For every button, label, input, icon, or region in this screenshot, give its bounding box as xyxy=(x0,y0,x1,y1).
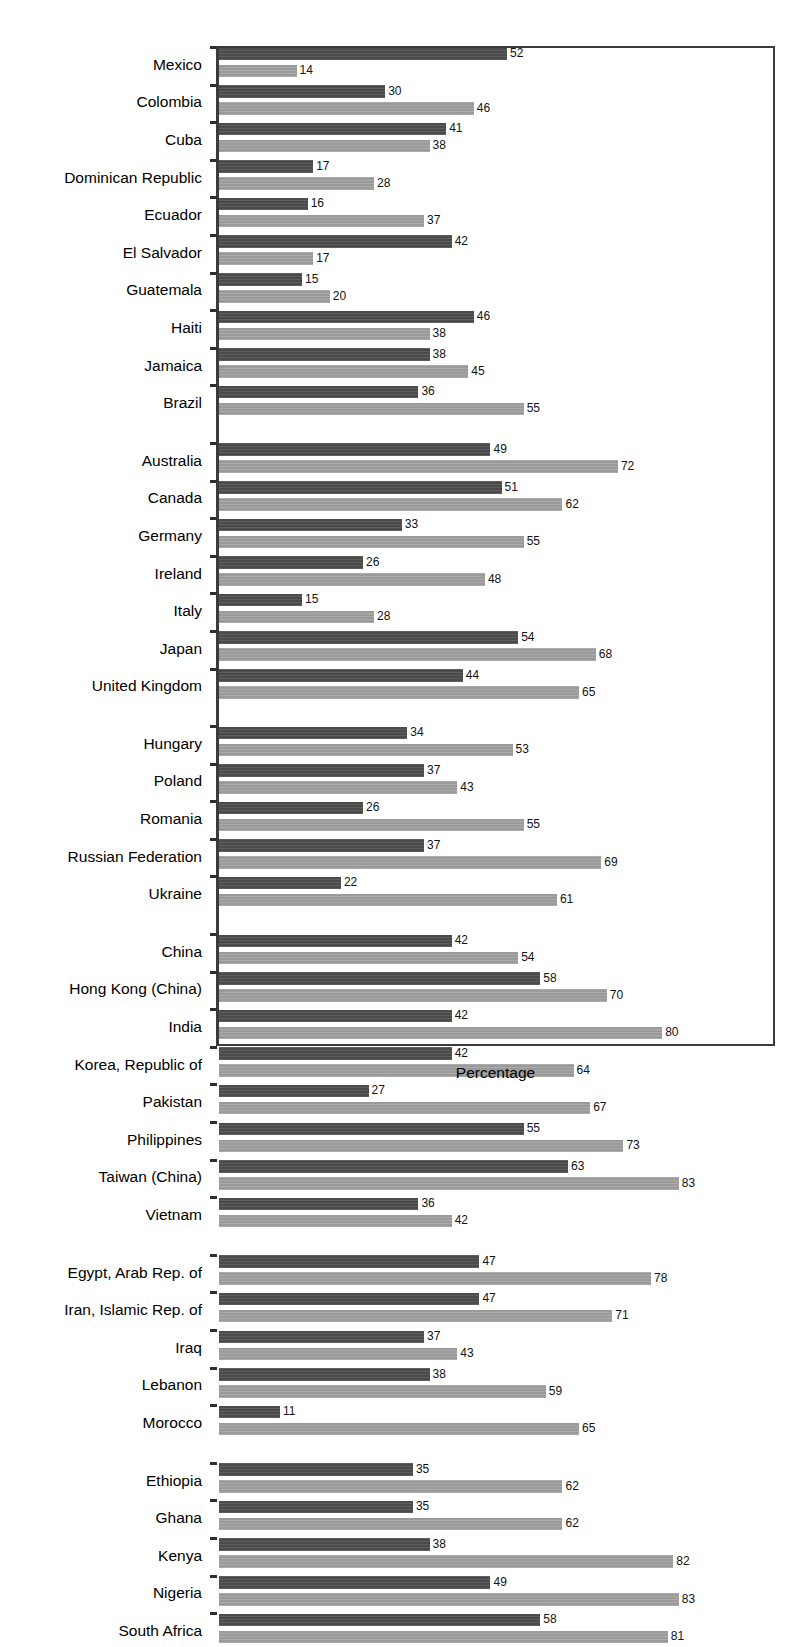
bar-line-light: 43 xyxy=(219,1346,775,1361)
bar-line-dark: 27 xyxy=(219,1083,775,1100)
bar-value-label: 54 xyxy=(521,629,534,645)
bar-line-light: 48 xyxy=(219,572,775,587)
bar-value-label: 62 xyxy=(565,1515,578,1531)
category-label: Dominican Republic xyxy=(0,159,210,197)
category-label: Nigeria xyxy=(0,1575,210,1613)
bar-line-dark: 17 xyxy=(219,159,775,176)
axis-tick-mark xyxy=(210,838,217,841)
category-label: Poland xyxy=(0,763,210,801)
axis-tick-mark xyxy=(210,555,217,558)
country-group-labels: EthiopiaGhanaKenyaNigeriaSouth Africa xyxy=(0,1462,210,1647)
bar-value-label: 65 xyxy=(582,684,595,700)
bar-line-dark: 38 xyxy=(219,347,775,364)
category-label: Vietnam xyxy=(0,1196,210,1234)
bar-dark xyxy=(219,877,341,890)
bar-value-label: 45 xyxy=(471,363,484,379)
bar-line-light: 62 xyxy=(219,1479,775,1494)
bar-row: 1520 xyxy=(216,272,775,310)
country-group-labels: ChinaHong Kong (China)IndiaKorea, Republ… xyxy=(0,933,210,1234)
bar-light xyxy=(219,1027,662,1040)
axis-tick-mark xyxy=(210,875,217,878)
bar-value-label: 38 xyxy=(433,137,446,153)
bar-line-dark: 16 xyxy=(219,196,775,213)
bar-value-label: 55 xyxy=(527,1120,540,1136)
axis-tick-mark xyxy=(210,668,217,671)
bar-value-label: 16 xyxy=(311,195,324,211)
country-group: 5214304641381728163742171520463838453655 xyxy=(216,46,775,422)
bar-value-label: 43 xyxy=(460,1345,473,1361)
bar-line-dark: 42 xyxy=(219,1046,775,1063)
bar-light xyxy=(219,894,557,907)
axis-tick-mark xyxy=(210,1159,217,1162)
bar-value-label: 26 xyxy=(366,554,379,570)
bar-row: 4280 xyxy=(216,1008,775,1046)
bar-dark xyxy=(219,1160,568,1173)
bar-line-dark: 38 xyxy=(219,1537,775,1554)
bar-light xyxy=(219,290,330,303)
bar-dark xyxy=(219,1255,479,1268)
bar-line-light: 65 xyxy=(219,685,775,700)
category-axis-labels: MexicoColombiaCubaDominican RepublicEcua… xyxy=(0,46,210,1046)
bar-row: 2767 xyxy=(216,1083,775,1121)
bar-value-label: 69 xyxy=(604,854,617,870)
group-separator-label-spacer xyxy=(0,422,210,442)
group-separator-label-spacer xyxy=(0,705,210,725)
bar-line-dark: 54 xyxy=(219,630,775,647)
bar-dark xyxy=(219,160,313,173)
bar-line-dark: 63 xyxy=(219,1159,775,1176)
category-label: Italy xyxy=(0,592,210,630)
bar-value-label: 22 xyxy=(344,874,357,890)
bar-row: 5881 xyxy=(216,1612,775,1647)
bar-value-label: 49 xyxy=(493,441,506,457)
bar-line-dark: 26 xyxy=(219,555,775,572)
bar-value-label: 37 xyxy=(427,837,440,853)
bar-line-dark: 38 xyxy=(219,1367,775,1384)
bar-row: 2261 xyxy=(216,875,775,913)
bar-value-label: 28 xyxy=(377,175,390,191)
bar-row: 3642 xyxy=(216,1196,775,1234)
axis-tick-mark xyxy=(210,309,217,312)
bar-light xyxy=(219,365,468,378)
bar-dark xyxy=(219,802,363,815)
bar-line-light: 28 xyxy=(219,609,775,624)
bar-line-light: 17 xyxy=(219,251,775,266)
bar-line-dark: 42 xyxy=(219,933,775,950)
axis-tick-mark xyxy=(210,1196,217,1199)
bar-row: 6383 xyxy=(216,1159,775,1197)
bar-line-light: 53 xyxy=(219,742,775,757)
bar-value-label: 35 xyxy=(416,1461,429,1477)
group-separator xyxy=(216,705,775,725)
bar-dark xyxy=(219,669,463,682)
group-separator xyxy=(216,1234,775,1254)
bar-value-label: 54 xyxy=(521,949,534,965)
bar-line-dark: 15 xyxy=(219,592,775,609)
bar-dark xyxy=(219,1501,413,1514)
bar-dark xyxy=(219,48,507,61)
bar-value-label: 44 xyxy=(466,667,479,683)
bar-line-dark: 34 xyxy=(219,725,775,742)
category-label: Ecuador xyxy=(0,196,210,234)
bar-line-light: 78 xyxy=(219,1271,775,1286)
bar-light xyxy=(219,573,485,586)
bar-dark xyxy=(219,1198,418,1211)
bar-light xyxy=(219,1348,457,1361)
country-group-labels: Egypt, Arab Rep. ofIran, Islamic Rep. of… xyxy=(0,1254,210,1442)
country-group: 4972516233552648152854684465 xyxy=(216,442,775,705)
axis-tick-mark xyxy=(210,763,217,766)
bar-value-label: 15 xyxy=(305,271,318,287)
axis-tick-mark xyxy=(210,159,217,162)
bar-value-label: 14 xyxy=(300,62,313,78)
category-label: Ghana xyxy=(0,1499,210,1537)
bar-value-label: 70 xyxy=(610,987,623,1003)
axis-tick-mark xyxy=(210,517,217,520)
bar-value-label: 80 xyxy=(665,1024,678,1040)
bar-line-light: 38 xyxy=(219,138,775,153)
bar-line-dark: 49 xyxy=(219,442,775,459)
bar-line-dark: 30 xyxy=(219,84,775,101)
axis-tick-mark xyxy=(210,384,217,387)
bar-line-light: 28 xyxy=(219,176,775,191)
axis-tick-mark xyxy=(210,971,217,974)
bar-line-dark: 58 xyxy=(219,1612,775,1629)
bar-value-label: 42 xyxy=(455,233,468,249)
bar-line-dark: 55 xyxy=(219,1121,775,1138)
